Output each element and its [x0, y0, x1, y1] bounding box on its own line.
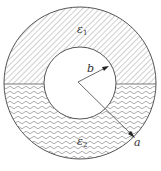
radius-b-label: b	[87, 62, 94, 75]
radius-a-label: a	[134, 136, 141, 149]
coax-diagram: ε1 ε2 b a	[0, 0, 161, 171]
